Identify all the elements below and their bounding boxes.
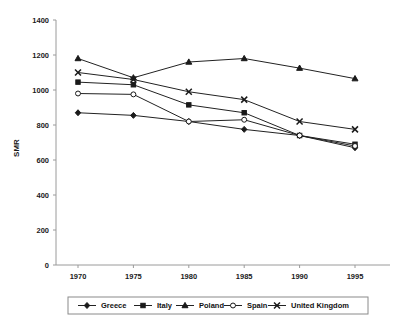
legend-label: Poland bbox=[199, 301, 224, 310]
data-point-marker-italy bbox=[242, 111, 246, 115]
legend-label: United Kingdom bbox=[291, 301, 349, 310]
x-tick-label: 1975 bbox=[125, 272, 142, 281]
x-axis: 197019751980198519901995 bbox=[56, 265, 390, 281]
data-point-marker-spain bbox=[131, 92, 136, 97]
data-point-marker-spain bbox=[242, 117, 247, 122]
data-point-marker-poland bbox=[241, 55, 247, 60]
series-spain bbox=[76, 91, 358, 148]
legend-label: Spain bbox=[247, 301, 268, 310]
y-tick-label: 600 bbox=[36, 156, 49, 165]
data-point-marker-italy bbox=[187, 103, 191, 107]
series-polyline bbox=[78, 113, 355, 148]
y-tick-label: 0 bbox=[45, 261, 49, 270]
data-point-marker-spain bbox=[186, 119, 191, 124]
y-axis: 0200400600800100012001400 bbox=[32, 16, 56, 270]
y-tick-label: 1000 bbox=[32, 86, 49, 95]
data-point-marker-greece bbox=[131, 112, 136, 118]
x-tick-label: 1985 bbox=[236, 272, 253, 281]
data-point-marker-italy bbox=[131, 83, 135, 87]
series-italy bbox=[76, 80, 357, 147]
series-greece bbox=[75, 110, 357, 151]
chart-legend: GreeceItalyPolandSpainUnited Kingdom bbox=[68, 297, 368, 314]
data-point-marker-greece bbox=[241, 126, 246, 132]
data-point-marker-legend-italy bbox=[141, 303, 145, 307]
y-axis-title: SMR bbox=[12, 139, 21, 157]
y-tick-label: 1400 bbox=[32, 16, 49, 25]
data-point-marker-spain bbox=[297, 133, 302, 138]
chart-canvas: 0200400600800100012001400 19701975198019… bbox=[0, 0, 399, 326]
data-series-group bbox=[75, 55, 358, 150]
data-point-marker-italy bbox=[76, 80, 80, 84]
data-point-marker-spain bbox=[353, 144, 358, 149]
y-tick-label: 200 bbox=[36, 226, 49, 235]
y-tick-label: 800 bbox=[36, 121, 49, 130]
x-tick-label: 1990 bbox=[291, 272, 308, 281]
data-point-marker-greece bbox=[75, 110, 80, 116]
data-point-marker-legend-spain bbox=[231, 303, 236, 308]
legend-label: Italy bbox=[157, 301, 173, 310]
series-polyline bbox=[78, 94, 355, 147]
series-polyline bbox=[78, 82, 355, 144]
x-tick-label: 1970 bbox=[70, 272, 87, 281]
y-tick-label: 400 bbox=[36, 191, 49, 200]
smr-line-chart: 0200400600800100012001400 19701975198019… bbox=[0, 0, 399, 326]
data-point-marker-poland bbox=[75, 55, 81, 60]
series-polyline bbox=[78, 59, 355, 79]
y-tick-label: 1200 bbox=[32, 51, 49, 60]
series-united-kingdom bbox=[75, 70, 358, 133]
x-tick-label: 1980 bbox=[180, 272, 197, 281]
x-tick-label: 1995 bbox=[347, 272, 364, 281]
data-point-marker-spain bbox=[76, 91, 81, 96]
legend-label: Greece bbox=[101, 301, 126, 310]
